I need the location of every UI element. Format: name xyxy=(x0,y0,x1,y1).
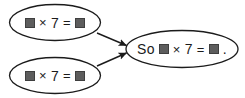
blank-square-icon xyxy=(209,44,219,54)
multiplication-sign: × xyxy=(39,69,47,82)
equals-sign: = xyxy=(197,43,205,56)
arrow-premise-1-to-conclusion xyxy=(97,33,127,46)
blank-square-icon xyxy=(75,71,85,81)
math-reasoning-diagram: × 7 = × 7 = So × 7 = . xyxy=(0,0,245,98)
equals-sign: = xyxy=(63,69,71,82)
multiplication-sign: × xyxy=(39,16,47,29)
multiplication-sign: × xyxy=(173,43,181,56)
blank-square-icon xyxy=(75,18,85,28)
sentence-period: . xyxy=(223,42,227,56)
conclusion-lead-word: So xyxy=(137,42,155,56)
factor-value: 7 xyxy=(51,69,59,83)
arrow-premise-2-to-conclusion xyxy=(97,53,127,66)
blank-square-icon xyxy=(25,71,35,81)
node-conclusion: So × 7 = . xyxy=(126,30,238,68)
node-premise-2: × 7 = xyxy=(9,57,101,94)
blank-square-icon xyxy=(159,44,169,54)
node-premise-1: × 7 = xyxy=(9,4,101,41)
factor-value: 7 xyxy=(185,42,193,56)
factor-value: 7 xyxy=(51,16,59,30)
equals-sign: = xyxy=(63,16,71,29)
blank-square-icon xyxy=(25,18,35,28)
